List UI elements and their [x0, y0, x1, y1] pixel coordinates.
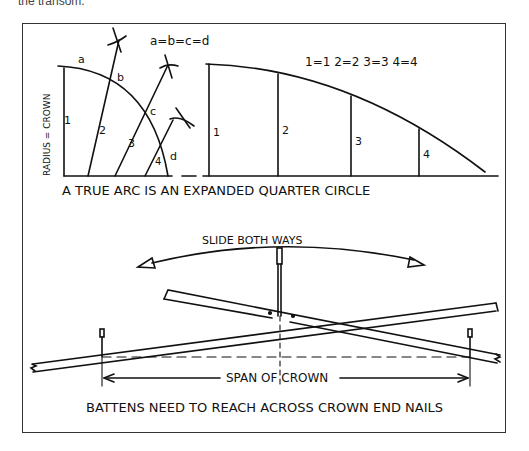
equation-letters: a=b=c=d — [150, 34, 209, 48]
slide-label: SLIDE BOTH WAYS — [202, 234, 302, 247]
top-caption: A TRUE ARC IS AN EXPANDED QUARTER CIRCLE — [62, 183, 370, 198]
battens — [31, 248, 500, 386]
qc-segment-3: 3 — [128, 137, 135, 150]
span-label: SPAN OF CROWN — [226, 371, 328, 385]
qc-segment-1: 1 — [64, 114, 71, 127]
bottom-caption: BATTENS NEED TO REACH ACROSS CROWN END N… — [86, 400, 443, 415]
arc-label-c: c — [150, 105, 156, 118]
arc-segment-2: 2 — [282, 124, 289, 137]
arc-label-d: d — [170, 150, 177, 163]
arc-segment-3: 3 — [355, 135, 362, 148]
qc-segment-2: 2 — [99, 124, 106, 137]
arc-label-a: a — [78, 53, 85, 66]
qc-segment-4: 4 — [155, 156, 161, 167]
radius-crown-label: RADIUS = CROWN — [42, 94, 52, 176]
arc-label-b: b — [117, 71, 124, 84]
expanded-arc-diagram — [203, 64, 498, 176]
equation-numbers: 1=1 2=2 3=3 4=4 — [305, 55, 418, 69]
arc-segment-4: 4 — [423, 148, 430, 161]
arc-segment-1: 1 — [213, 126, 220, 139]
crown-layout-illustration: a=b=c=d 1=1 2=2 3=3 4=4 RADIUS = CROWN a… — [0, 0, 529, 451]
